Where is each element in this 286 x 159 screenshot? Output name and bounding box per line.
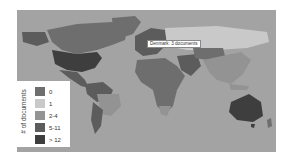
legend-item-3: 5-11 [35,123,61,132]
legend-title: # of documents [20,84,27,140]
legend-label: 1 [49,101,52,107]
legend-swatch [35,87,45,96]
map-legend: # of documents 0 1 2-4 5-11 > 12 [17,81,70,147]
region-new-zealand[interactable] [267,118,272,128]
region-australia[interactable] [229,94,263,122]
legend-swatch [35,135,45,144]
legend-swatch [35,99,45,108]
region-indonesia[interactable] [229,84,249,90]
region-africa[interactable] [135,58,185,114]
legend-item-0: 0 [35,87,52,96]
region-south-africa[interactable] [159,106,171,116]
legend-item-4: > 12 [35,135,61,144]
country-tooltip: Denmark: 3 documents [147,40,201,48]
legend-label: > 12 [49,137,61,143]
legend-item-2: 2-4 [35,111,58,120]
legend-label: 5-11 [49,125,61,131]
legend-swatch [35,123,45,132]
legend-label: 2-4 [49,113,58,119]
region-alaska[interactable] [22,32,49,46]
region-tasmania[interactable] [251,124,255,128]
legend-item-1: 1 [35,99,52,108]
legend-label: 0 [49,89,52,95]
legend-swatch [35,111,45,120]
